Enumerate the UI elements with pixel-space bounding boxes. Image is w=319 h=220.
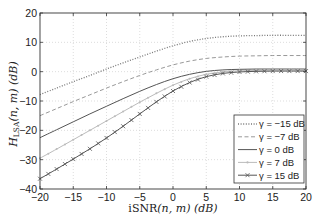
x-marker <box>163 94 167 98</box>
x-marker <box>96 141 100 145</box>
legend-label: γ = 15 dB <box>259 170 299 181</box>
dot-marker <box>139 101 141 103</box>
y-tick-label: 0 <box>31 66 37 78</box>
y-tick-label: −20 <box>19 124 37 136</box>
dot-marker <box>89 129 91 131</box>
y-tick-label: 20 <box>25 7 37 19</box>
x-marker <box>129 118 133 122</box>
y-axis-label-args: (n, m) (dB) <box>7 61 20 121</box>
x-marker <box>63 162 67 166</box>
x-marker <box>146 106 150 110</box>
legend-label: γ = 7 dB <box>259 157 294 168</box>
legend-label: γ = −7 dB <box>259 131 300 142</box>
y-axis-label-sub: LSA <box>12 121 21 137</box>
y-axis-label-main: H <box>7 137 20 148</box>
dot-marker <box>106 120 108 122</box>
x-marker <box>121 124 125 128</box>
x-axis-label-args: (n, m) (dB) <box>157 202 217 215</box>
dot-marker <box>56 148 58 150</box>
dot-marker <box>172 84 174 86</box>
dot-marker <box>64 143 66 145</box>
dot-marker <box>197 76 199 78</box>
y-tick-label: −40 <box>19 183 37 195</box>
x-tick-label: 10 <box>234 191 246 203</box>
x-tick-label: −15 <box>64 191 82 203</box>
dot-marker <box>130 106 132 108</box>
y-tick-labels: −40−30−20−1001020 <box>19 7 37 195</box>
dot-marker <box>47 153 49 155</box>
x-axis-label-main: iSNR <box>128 202 158 215</box>
y-axis-label: HLSA(n, m) (dB) <box>7 61 21 147</box>
dot-marker <box>72 139 74 141</box>
dot-marker <box>205 73 207 75</box>
dot-marker <box>114 115 116 117</box>
x-marker <box>55 167 59 171</box>
x-axis-label: iSNR(n, m) (dB) <box>128 202 217 215</box>
x-marker <box>80 152 84 156</box>
dot-marker <box>147 97 149 99</box>
x-marker <box>171 89 175 93</box>
y-tick-label: 10 <box>25 36 37 48</box>
chart: −20−15−10−505101520 −40−30−20−1001020 iS… <box>0 0 319 220</box>
dot-marker <box>97 125 99 127</box>
legend: γ = −15 dBγ = −7 dBγ = 0 dBγ = 7 dBγ = 1… <box>234 115 305 183</box>
x-tick-label: 15 <box>267 191 279 203</box>
x-marker <box>46 172 50 176</box>
x-marker <box>188 81 192 85</box>
x-tick-label: −10 <box>98 191 116 203</box>
legend-label: γ = −15 dB <box>259 118 305 129</box>
dot-marker <box>155 92 157 94</box>
dot-marker <box>189 78 191 80</box>
dot-marker <box>81 134 83 136</box>
y-tick-label: −10 <box>19 95 37 107</box>
x-marker <box>88 147 92 151</box>
x-tick-label: 20 <box>300 191 312 203</box>
legend-label: γ = 0 dB <box>259 144 294 155</box>
dot-marker <box>164 88 166 90</box>
y-tick-label: −30 <box>19 154 37 166</box>
dot-marker <box>180 81 182 83</box>
x-marker <box>113 130 117 134</box>
x-marker <box>154 100 158 104</box>
dot-marker <box>122 111 124 113</box>
